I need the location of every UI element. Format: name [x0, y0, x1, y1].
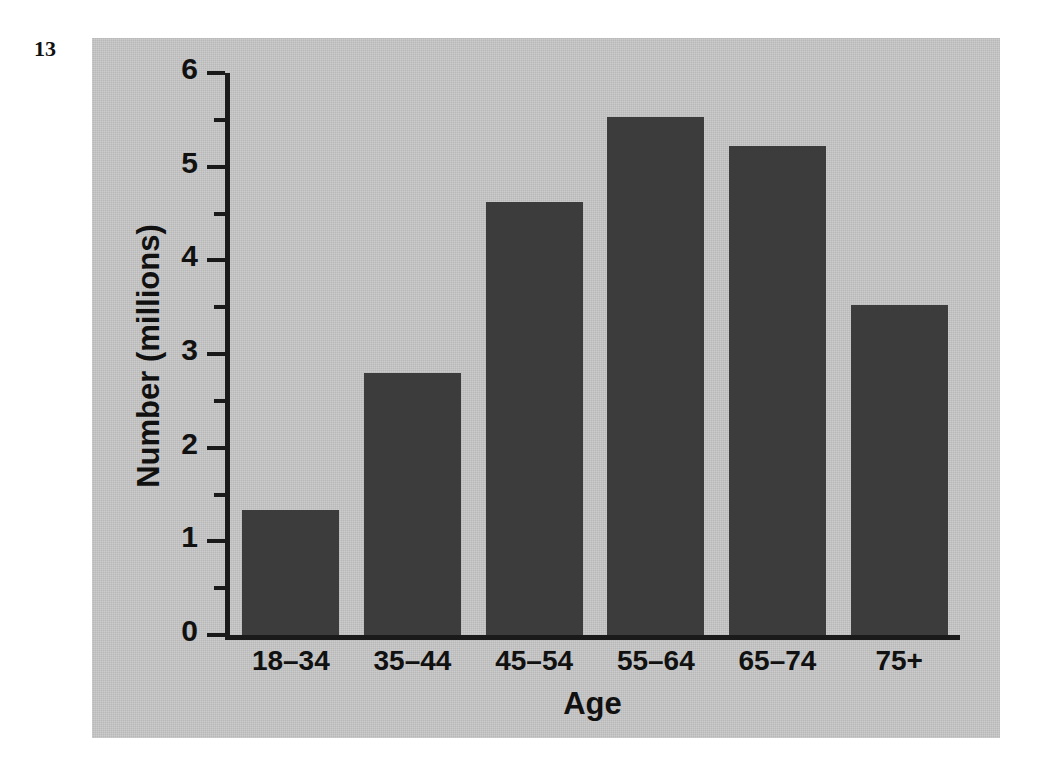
bar: [607, 117, 704, 635]
bar: [486, 202, 583, 635]
y-axis-major-tick: [207, 539, 225, 543]
x-axis-tick-label: 18–34: [230, 645, 352, 677]
page-number: 13: [34, 36, 56, 62]
y-axis-minor-tick: [214, 586, 225, 590]
x-axis-tick-label: 65–74: [717, 645, 839, 677]
y-axis-major-tick: [207, 633, 225, 637]
y-axis-major-tick: [207, 446, 225, 450]
bar: [729, 146, 826, 635]
x-axis-tick-label: 75+: [838, 645, 960, 677]
x-axis-tick-label: 45–54: [473, 645, 595, 677]
y-axis-minor-tick: [214, 212, 225, 216]
y-axis-major-tick: [207, 352, 225, 356]
y-axis-tick-label: 6: [138, 52, 198, 86]
bar-chart-plot-area: 0123456 Number (millions) 18–3435–4445–5…: [92, 38, 1000, 738]
x-axis-line: [225, 635, 960, 640]
y-axis-tick-label: 0: [138, 614, 198, 648]
y-axis-line: [225, 73, 230, 638]
bar: [851, 305, 948, 635]
y-axis-minor-tick: [214, 305, 225, 309]
y-axis-major-tick: [207, 258, 225, 262]
y-axis-minor-tick: [214, 493, 225, 497]
y-axis-major-tick: [207, 165, 225, 169]
x-axis-title: Age: [225, 686, 960, 722]
figure-panel: 0123456 Number (millions) 18–3435–4445–5…: [92, 38, 1000, 738]
bar: [242, 510, 339, 635]
y-axis-minor-tick: [214, 399, 225, 403]
x-axis-tick-label: 35–44: [352, 645, 474, 677]
y-axis-major-tick: [207, 71, 225, 75]
bar: [364, 373, 461, 635]
y-axis-minor-tick: [214, 118, 225, 122]
y-axis-title: Number (millions): [131, 126, 167, 586]
x-axis-tick-label: 55–64: [595, 645, 717, 677]
